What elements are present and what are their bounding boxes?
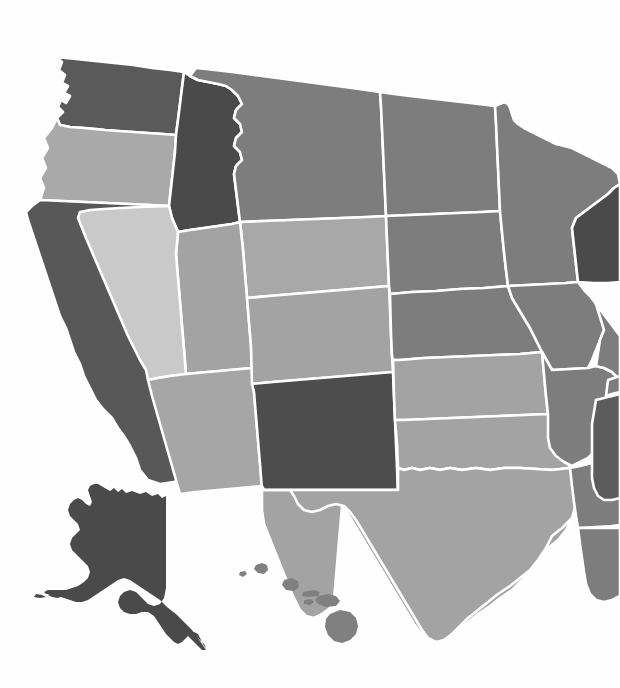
state-kansas[interactable] (393, 352, 548, 420)
state-oklahoma[interactable] (395, 414, 570, 470)
state-utah[interactable] (176, 222, 252, 374)
state-wyoming[interactable] (240, 216, 389, 298)
map-figure (0, 0, 620, 688)
state-new-mexico[interactable] (252, 372, 398, 490)
state-idaho[interactable] (169, 72, 242, 232)
state-mississippi[interactable] (592, 394, 620, 500)
state-colorado[interactable] (247, 286, 393, 384)
us-choropleth-map (0, 0, 620, 688)
state-north-dakota[interactable] (380, 92, 500, 216)
state-south-dakota[interactable] (386, 211, 508, 294)
state-washington[interactable] (56, 57, 184, 135)
state-tennessee[interactable] (606, 376, 620, 396)
